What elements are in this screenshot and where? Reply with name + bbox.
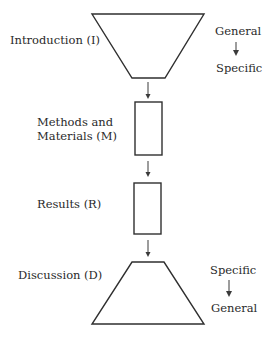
results-label: Results (R) (37, 197, 101, 211)
methods-box (135, 102, 162, 155)
introduction-funnel (92, 14, 204, 78)
results-box (134, 183, 161, 234)
methods-label-line2: Materials (M) (37, 129, 117, 143)
discussion-scope-arrow-icon (226, 280, 232, 297)
discussion-trapezoid (92, 262, 204, 324)
discussion-scope-from: Specific (210, 263, 256, 277)
introduction-label: Introduction (I) (10, 33, 100, 47)
imrd-diagram: Introduction (I) General Specific Method… (0, 0, 271, 338)
discussion-scope-to: General (211, 301, 258, 315)
arrow-i-to-m-icon (146, 82, 151, 99)
arrow-r-to-d-icon (146, 240, 151, 257)
intro-scope-from: General (215, 24, 262, 38)
arrow-m-to-r-icon (146, 161, 151, 177)
methods-label-line1: Methods and (37, 115, 114, 129)
intro-scope-arrow-icon (233, 42, 239, 56)
intro-scope-to: Specific (216, 61, 262, 75)
discussion-label: Discussion (D) (18, 268, 102, 282)
